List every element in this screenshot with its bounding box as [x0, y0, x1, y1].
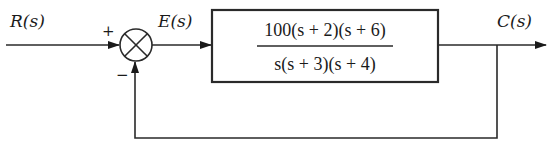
summing-junction — [120, 29, 152, 61]
minus-sign: − — [116, 66, 129, 84]
output-label: C(s) — [497, 11, 532, 31]
transfer-function-denominator: s(s + 3)(s + 4) — [274, 54, 375, 75]
plus-sign: + — [102, 22, 115, 40]
input-label: R(s) — [9, 11, 45, 31]
block-diagram: R(s) + − E(s) 100(s + 2)(s + 6) s(s + 3)… — [0, 0, 550, 150]
error-label: E(s) — [157, 11, 192, 31]
transfer-function-numerator: 100(s + 2)(s + 6) — [264, 20, 385, 41]
